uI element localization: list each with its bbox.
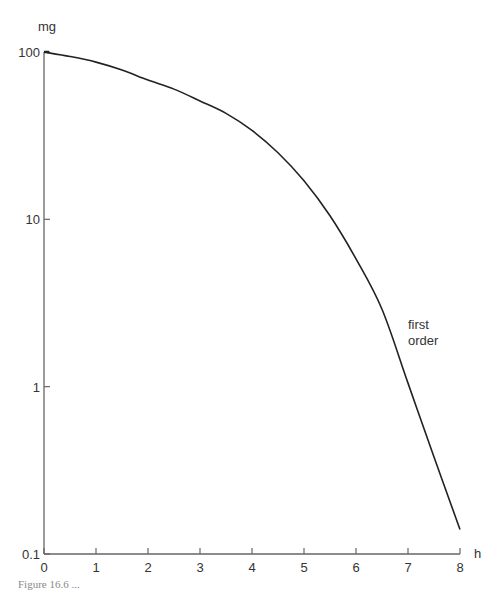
first-order-annotation: firstorder	[408, 317, 439, 348]
series-line	[44, 52, 460, 530]
chart: 012345678 0.1110100 mg h firstorder	[0, 0, 496, 593]
annotation-line: first	[408, 317, 429, 332]
x-tick-label: 2	[144, 560, 151, 575]
annotation-line: order	[408, 333, 439, 348]
axes	[44, 52, 460, 554]
x-tick-label: 3	[196, 560, 203, 575]
x-tick-label: 0	[40, 560, 47, 575]
y-tick-label: 100	[18, 45, 40, 60]
x-tick-label: 4	[248, 560, 255, 575]
x-tick-label: 6	[352, 560, 359, 575]
y-ticks: 0.1110100	[18, 45, 50, 562]
x-tick-label: 7	[404, 560, 411, 575]
x-axis-unit-label: h	[474, 546, 481, 561]
y-tick-label: 0.1	[22, 547, 40, 562]
y-tick-label: 10	[26, 212, 40, 227]
y-axis-unit-label: mg	[38, 19, 56, 34]
y-tick-label: 1	[33, 380, 40, 395]
figure-caption: Figure 16.6 ...	[18, 578, 80, 590]
x-tick-label: 1	[92, 560, 99, 575]
x-tick-label: 5	[300, 560, 307, 575]
x-ticks: 012345678	[40, 548, 463, 575]
x-tick-label: 8	[456, 560, 463, 575]
